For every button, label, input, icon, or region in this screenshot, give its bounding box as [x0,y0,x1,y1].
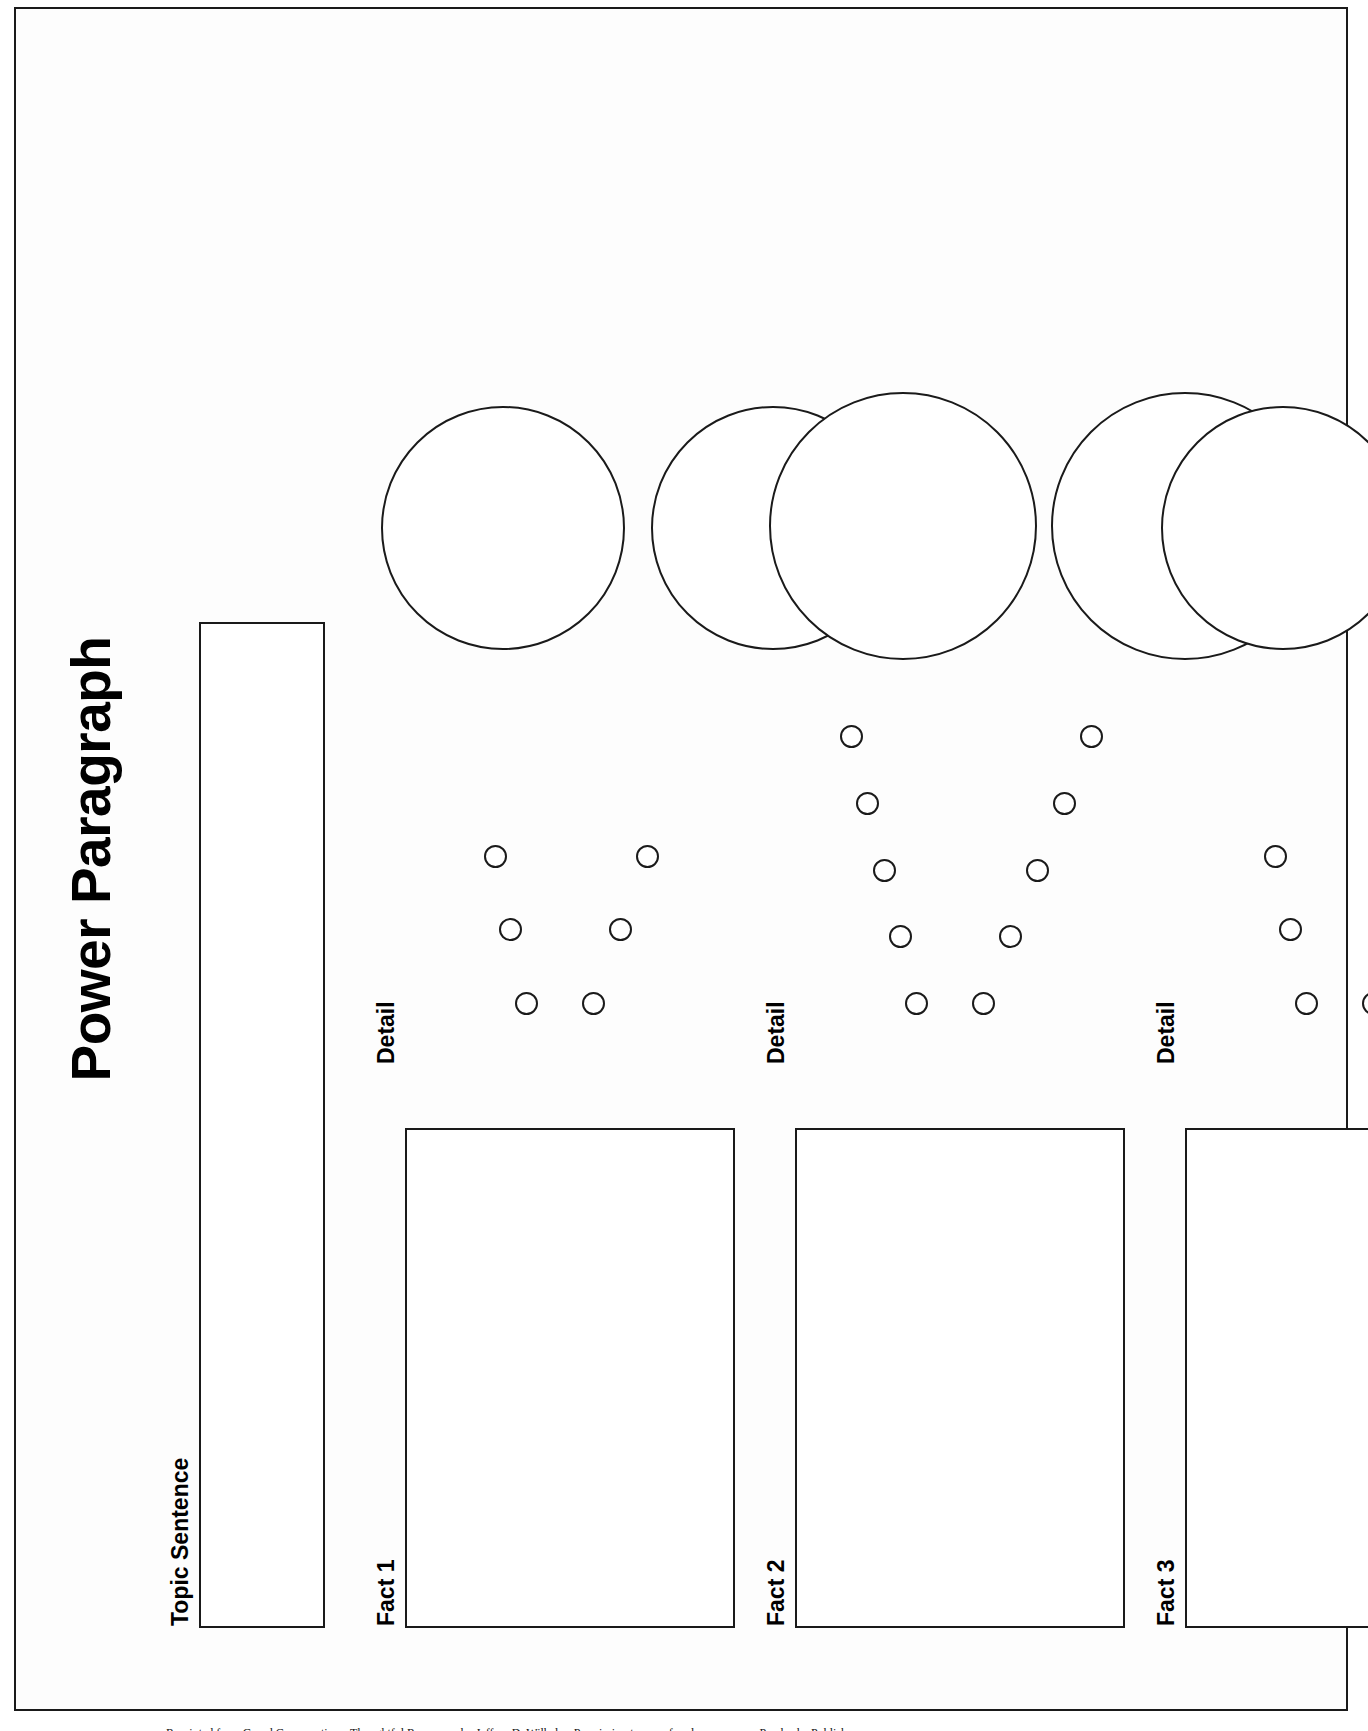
topic-sentence-box[interactable] [199,622,325,1628]
connector-dot [609,919,632,942]
topic-sentence-label: Topic Sentence [167,1458,194,1626]
connector-dot [840,725,863,748]
page-border: Power Paragraph Topic Sentence Fact 1 De… [14,7,1348,1711]
fact-2-box[interactable] [795,1128,1125,1628]
connector-dot [1026,859,1049,882]
connector-dot [905,992,928,1015]
fact-2-detail-label: Detail [763,1001,790,1064]
fact-1-detail-label: Detail [373,1001,400,1064]
connector-dot [499,919,522,942]
fact-1-label: Fact 1 [373,1560,400,1626]
connector-dot [972,992,995,1015]
connector-dot [1053,792,1076,815]
fact-2-detail-circle-1[interactable] [769,392,1037,660]
connector-dot [515,992,538,1015]
connector-dot [636,845,659,868]
connector-dot [873,859,896,882]
connector-dot [856,792,879,815]
connector-dot [1279,919,1302,942]
fact-3-box[interactable] [1185,1128,1368,1628]
page-title: Power Paragraph [59,14,123,1704]
fact-3-label: Fact 3 [1153,1560,1180,1626]
connector-dot [889,925,912,948]
fact-1-box[interactable] [405,1128,735,1628]
connector-dot [1362,992,1368,1015]
fact-3-detail-label: Detail [1153,1001,1180,1064]
connector-dot [484,845,507,868]
fact-2-label: Fact 2 [763,1560,790,1626]
fact-1-detail-circle-1[interactable] [381,406,625,650]
connector-dot [1080,725,1103,748]
connector-dot [999,925,1022,948]
connector-dot [1264,845,1287,868]
connector-dot [1295,992,1318,1015]
connector-dot [582,992,605,1015]
worksheet-canvas: Power Paragraph Topic Sentence Fact 1 De… [21,14,1341,1704]
worksheet-page: Power Paragraph Topic Sentence Fact 1 De… [0,0,1368,1731]
footer-credit: Reprinted from Grand Conversations, Thou… [166,1726,864,1731]
